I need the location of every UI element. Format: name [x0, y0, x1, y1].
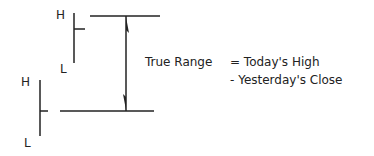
- yesterday-price-bar: [40, 80, 48, 136]
- today-high-label: H: [56, 9, 65, 21]
- today-price-bar: [74, 13, 85, 63]
- today-low-label: L: [60, 63, 67, 75]
- formula-line-2: - Yesterday's Close: [230, 74, 342, 86]
- formula-lhs: True Range: [145, 56, 212, 68]
- range-arrow: [123, 16, 129, 111]
- formula-line-1: = Today's High: [230, 56, 320, 68]
- yesterday-high-label: H: [21, 76, 30, 88]
- yesterday-low-label: L: [24, 137, 31, 149]
